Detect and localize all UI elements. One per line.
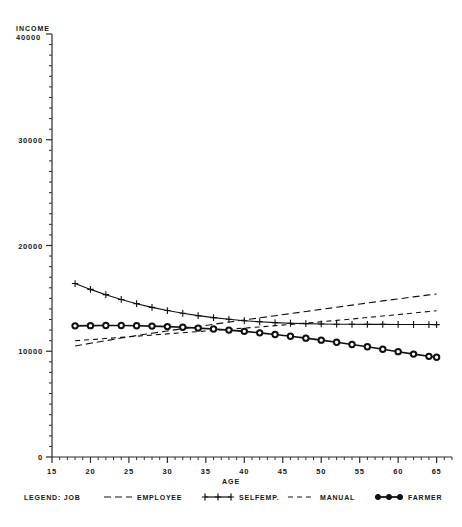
- x-tick-label: 15: [47, 467, 57, 476]
- y-tick-label: 10000: [18, 347, 43, 356]
- y-tick-label: 0: [38, 453, 43, 462]
- x-tick-label: 45: [278, 467, 288, 476]
- legend-title: LEGEND: JOB: [24, 494, 81, 501]
- y-axis-title: INCOME: [16, 25, 50, 32]
- legend-label-farmer: FARMER: [408, 494, 442, 501]
- series-layer: [72, 280, 440, 360]
- legend-entry-selfemp: SELFEMP.: [202, 494, 280, 502]
- series-selfemp: [72, 280, 440, 328]
- circle-marker-line-swatch-icon: [375, 494, 402, 499]
- x-axis-ticks: [52, 457, 452, 463]
- legend-entry-employee: EMPLOYEE: [104, 494, 182, 501]
- y-axis-ticks: [46, 34, 52, 457]
- plus-marker-line-swatch-icon: [202, 494, 234, 501]
- x-tick-label: 40: [239, 467, 249, 476]
- x-axis-tick-labels: 1520253035404550556065: [47, 467, 442, 476]
- x-axis-title: AGE: [222, 478, 240, 485]
- x-tick-label: 50: [316, 467, 326, 476]
- x-tick-label: 25: [124, 467, 134, 476]
- y-tick-label: 20000: [18, 242, 43, 251]
- x-tick-label: 35: [201, 467, 211, 476]
- legend-entry-farmer: FARMER: [375, 494, 442, 501]
- legend-label-employee: EMPLOYEE: [137, 494, 182, 501]
- y-axis-tick-labels: 0100002000030000: [18, 136, 43, 462]
- y-axis-top-tick-label: 40000: [16, 33, 41, 42]
- income-by-age-line-chart: INCOME 40000 0100002000030000 1520253035…: [0, 0, 462, 527]
- x-tick-label: 30: [162, 467, 172, 476]
- x-tick-label: 60: [393, 467, 403, 476]
- y-tick-label: 30000: [18, 136, 43, 145]
- x-tick-label: 20: [85, 467, 95, 476]
- legend-entry-manual: MANUAL: [288, 494, 355, 501]
- legend-label-manual: MANUAL: [320, 494, 355, 501]
- legend: LEGEND: JOB EMPLOYEE SELFEMP.: [24, 494, 442, 502]
- legend-label-selfemp: SELFEMP.: [239, 494, 280, 501]
- chart-canvas: INCOME 40000 0100002000030000 1520253035…: [0, 0, 462, 527]
- x-tick-label: 65: [432, 467, 442, 476]
- series-farmer: [72, 323, 439, 360]
- x-tick-label: 55: [355, 467, 365, 476]
